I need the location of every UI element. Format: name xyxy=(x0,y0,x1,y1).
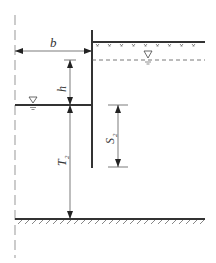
label-b: b xyxy=(50,35,57,50)
upper-ground-surface xyxy=(92,42,205,47)
dimension-b: b xyxy=(15,35,92,51)
outer-water-table xyxy=(92,51,205,64)
sheet-pile-diagram: b h T 2 S 2 xyxy=(0,0,216,263)
label-S-subscript: 2 xyxy=(111,133,119,137)
dimension-T2: T 2 xyxy=(55,105,71,219)
inner-water-level xyxy=(15,97,92,110)
label-h: h xyxy=(55,86,69,92)
water-level-icon xyxy=(29,97,37,103)
dimension-h: h xyxy=(55,60,76,105)
label-S: S xyxy=(103,138,117,144)
water-level-icon xyxy=(144,51,152,58)
impervious-base xyxy=(15,219,205,224)
label-T-subscript: 2 xyxy=(63,155,71,159)
dimension-S2: S 2 xyxy=(103,105,128,167)
